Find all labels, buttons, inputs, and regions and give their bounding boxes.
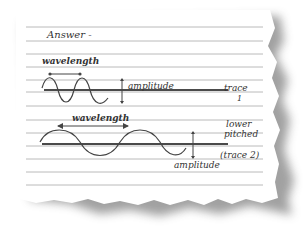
trace2-wavelength-label: wavelength	[72, 113, 129, 123]
trace1-label: trace	[224, 83, 248, 93]
trace1-wavelength-label: wavelength	[42, 56, 99, 66]
trace1-number: 1	[237, 94, 242, 103]
answer-heading: Answer -	[46, 29, 92, 40]
trace2-pitch-line1: lower	[226, 119, 252, 129]
trace2-amplitude-label: amplitude	[174, 160, 220, 170]
torn-note-illustration: Answer - wavelength amplitude trace 1 wa…	[0, 0, 304, 238]
trace2-pitch-line2: pitched	[224, 129, 258, 139]
trace2-label: (trace 2)	[220, 150, 260, 160]
trace1-amplitude-label: amplitude	[128, 81, 174, 91]
